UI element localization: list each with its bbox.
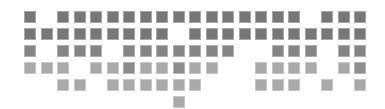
grid-square (107, 11, 119, 23)
grid-square (156, 28, 168, 40)
grid-square (222, 45, 234, 57)
grid-square (140, 28, 152, 40)
grid-square (255, 28, 267, 40)
grid-square (288, 11, 300, 23)
grid-square (74, 79, 86, 91)
grid-square (24, 45, 36, 57)
grid-square (173, 45, 185, 57)
grid-square (272, 28, 284, 40)
grid-square (156, 79, 168, 91)
grid-square (156, 11, 168, 23)
grid-square (24, 28, 36, 40)
grid-square (354, 79, 366, 91)
grid-square (173, 11, 185, 23)
grid-square (288, 62, 300, 74)
grid-square (123, 45, 135, 57)
grid-square (189, 28, 201, 40)
grid-square (338, 45, 350, 57)
grid-square (57, 45, 69, 57)
grid-square (189, 79, 201, 91)
grid-square (239, 28, 251, 40)
grid-square (107, 28, 119, 40)
grid-square (272, 79, 284, 91)
grid-square (255, 11, 267, 23)
grid-square (206, 28, 218, 40)
grid-square (321, 28, 333, 40)
grid-square (288, 28, 300, 40)
grid-square (222, 11, 234, 23)
grid-square (90, 28, 102, 40)
grid-square (173, 96, 185, 108)
grid-square (288, 79, 300, 91)
square-grid (0, 0, 385, 109)
grid-square (354, 28, 366, 40)
grid-square (123, 79, 135, 91)
grid-square (41, 62, 53, 74)
grid-square (123, 62, 135, 74)
grid-square (57, 11, 69, 23)
grid-square (57, 28, 69, 40)
grid-square (338, 11, 350, 23)
grid-square (90, 11, 102, 23)
grid-square (123, 11, 135, 23)
grid-square (206, 11, 218, 23)
grid-square (206, 62, 218, 74)
grid-square (305, 28, 317, 40)
grid-square (41, 28, 53, 40)
grid-square (189, 45, 201, 57)
grid-square (74, 28, 86, 40)
grid-square (74, 11, 86, 23)
grid-square (272, 11, 284, 23)
grid-square (321, 11, 333, 23)
grid-square (140, 11, 152, 23)
grid-square (107, 62, 119, 74)
grid-square (354, 62, 366, 74)
grid-square (140, 79, 152, 91)
grid-square (305, 45, 317, 57)
grid-square (156, 45, 168, 57)
grid-square (272, 45, 284, 57)
grid-square (90, 45, 102, 57)
grid-square (222, 28, 234, 40)
grid-square (189, 62, 201, 74)
grid-square (338, 62, 350, 74)
grid-square (255, 62, 267, 74)
grid-square (107, 79, 119, 91)
grid-square (288, 45, 300, 57)
grid-square (255, 79, 267, 91)
grid-square (24, 11, 36, 23)
grid-square (140, 45, 152, 57)
grid-square (354, 45, 366, 57)
grid-square (57, 62, 69, 74)
grid-square (90, 62, 102, 74)
grid-square (24, 62, 36, 74)
grid-square (354, 11, 366, 23)
grid-square (156, 62, 168, 74)
grid-square (206, 45, 218, 57)
grid-square (272, 62, 284, 74)
grid-square (189, 11, 201, 23)
grid-square (57, 79, 69, 91)
grid-square (338, 28, 350, 40)
grid-square (173, 62, 185, 74)
grid-square (173, 79, 185, 91)
grid-square (321, 79, 333, 91)
grid-square (74, 45, 86, 57)
grid-square (239, 11, 251, 23)
grid-square (123, 28, 135, 40)
grid-square (140, 62, 152, 74)
grid-square (305, 62, 317, 74)
